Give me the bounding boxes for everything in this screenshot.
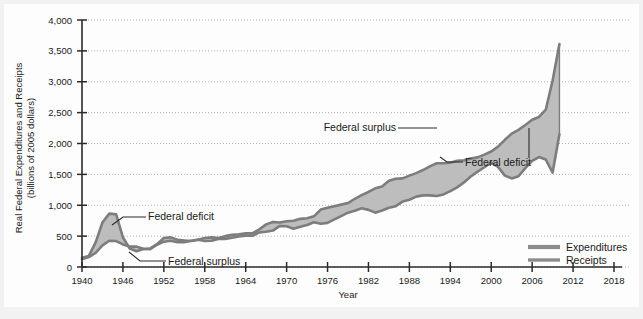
annotation-leader-line bbox=[129, 252, 166, 261]
x-tick-label: 1958 bbox=[194, 275, 215, 286]
y-tick-label: 500 bbox=[56, 231, 72, 242]
series-line-expenditures bbox=[82, 44, 559, 258]
y-tick-label: 2,000 bbox=[48, 138, 72, 149]
annotation-federal-deficit-left: Federal deficit bbox=[148, 210, 214, 222]
x-tick-label: 2018 bbox=[603, 275, 624, 286]
x-tick-label: 1952 bbox=[153, 275, 174, 286]
x-tick-label: 1994 bbox=[440, 275, 461, 286]
annotations: Federal deficitFederal surplusFederal su… bbox=[112, 121, 531, 267]
annotation-federal-surplus-left: Federal surplus bbox=[168, 255, 240, 267]
y-axis-label-line2: (billions of 2005 dollars) bbox=[25, 98, 36, 198]
y-tick-label: 2,500 bbox=[48, 107, 72, 118]
x-tick-label: 1940 bbox=[71, 275, 92, 286]
x-tick-label: 2012 bbox=[563, 275, 584, 286]
y-axis-label-line1: Real Federal Expenditures and Receipts bbox=[13, 62, 24, 233]
x-tick-label: 1970 bbox=[276, 275, 297, 286]
chart-figure: 1940194619521958196419701976198219881994… bbox=[0, 0, 643, 319]
series-lines bbox=[82, 44, 559, 259]
x-tick-label: 1988 bbox=[399, 275, 420, 286]
federal-expenditures-receipts-chart: 1940194619521958196419701976198219881994… bbox=[0, 0, 643, 319]
y-tick-label: 0 bbox=[67, 262, 72, 273]
y-tick-label: 3,000 bbox=[48, 76, 72, 87]
x-tick-label: 1982 bbox=[358, 275, 379, 286]
y-tick-label: 1,500 bbox=[48, 169, 72, 180]
x-axis-label: Year bbox=[338, 289, 357, 300]
x-tick-label: 1964 bbox=[235, 275, 256, 286]
y-tick-label: 3,500 bbox=[48, 45, 72, 56]
y-tick-label: 4,000 bbox=[48, 15, 72, 26]
legend[interactable]: ExpendituresReceipts bbox=[528, 241, 627, 266]
y-tick-label: 1,000 bbox=[48, 200, 72, 211]
legend-label-receipts[interactable]: Receipts bbox=[566, 254, 607, 266]
annotation-federal-deficit-right: Federal deficit bbox=[465, 156, 531, 168]
annotation-federal-surplus-right: Federal surplus bbox=[324, 121, 396, 133]
legend-label-expenditures[interactable]: Expenditures bbox=[566, 241, 627, 253]
y-axis-ticks: 05001,0001,5002,0002,5003,0003,5004,000 bbox=[48, 15, 87, 273]
x-tick-label: 1976 bbox=[317, 275, 338, 286]
x-tick-label: 1946 bbox=[112, 275, 133, 286]
y-axis-label: Real Federal Expenditures and Receipts (… bbox=[13, 62, 36, 233]
x-tick-label: 2000 bbox=[481, 275, 502, 286]
x-tick-label: 2006 bbox=[522, 275, 543, 286]
x-axis-ticks: 1940194619521958196419701976198219881994… bbox=[71, 262, 624, 286]
